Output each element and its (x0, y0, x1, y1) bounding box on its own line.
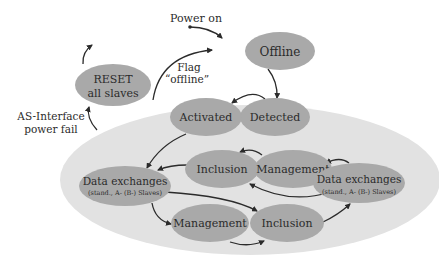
management-lower-label: Management (173, 217, 247, 230)
activated-label: Activated (179, 111, 233, 124)
state-reset: RESET all slaves (75, 64, 151, 106)
detected-label: Detected (250, 111, 300, 124)
reset-label-line1: RESET (93, 73, 133, 86)
inclusion-upper-label: Inclusion (196, 163, 247, 176)
state-diagram: Offline Detected Activated RESET all sla… (0, 0, 439, 259)
reset-label-line2: all slaves (87, 87, 139, 100)
state-management-lower: Management (171, 204, 249, 242)
state-detected: Detected (240, 98, 310, 136)
data-left-line1: Data exchanges (83, 175, 168, 187)
flag-label-line1: Flag (177, 61, 201, 73)
flag-label-line2: “offline” (165, 73, 209, 85)
power-on-label: Power on (170, 12, 222, 25)
arrow-power-on (190, 27, 222, 38)
data-right-line2: (stand., A- (B-) Slaves) (322, 188, 396, 196)
state-inclusion-lower: Inclusion (250, 204, 324, 242)
arrow-offline-detected (268, 69, 277, 98)
state-data-exchanges-right: Data exchanges (stand., A- (B-) Slaves) (313, 163, 405, 203)
data-right-line1: Data exchanges (317, 173, 402, 185)
data-left-line2: (stand., A- (B-) Slaves) (88, 189, 162, 197)
arrow-reset-out (83, 45, 92, 64)
as-interface-label-line2: power fail (24, 123, 78, 135)
state-activated: Activated (170, 98, 242, 136)
as-interface-label-line1: AS-Interface (16, 110, 84, 122)
arrow-power-fail-reset (88, 107, 97, 130)
state-inclusion-upper: Inclusion (185, 150, 259, 188)
state-data-exchanges-left: Data exchanges (stand., A- (B-) Slaves) (79, 166, 171, 206)
inclusion-lower-label: Inclusion (261, 217, 312, 230)
offline-label: Offline (260, 45, 301, 59)
state-offline: Offline (245, 32, 315, 70)
